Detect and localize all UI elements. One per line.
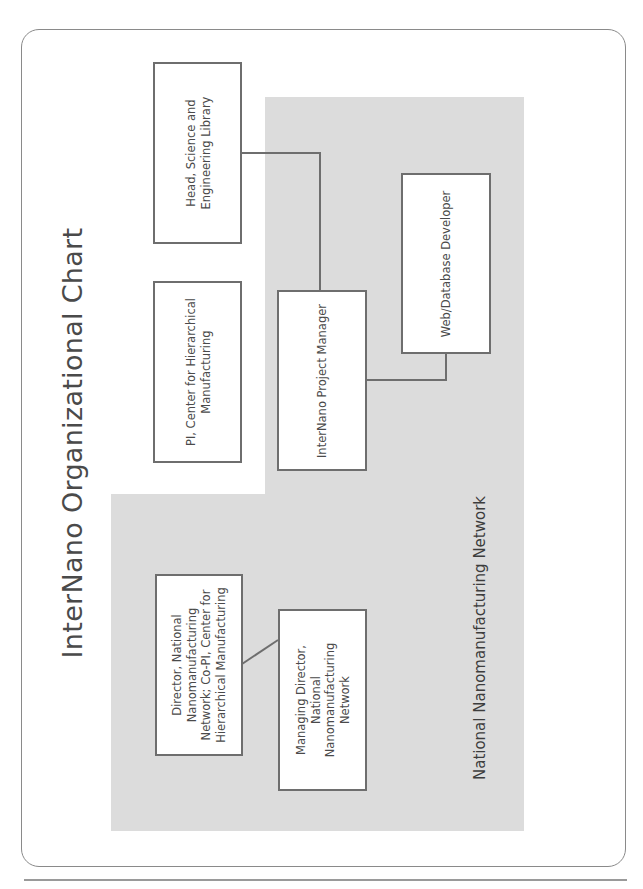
node-label: Web/Database Developer [439, 176, 454, 351]
node-label: PI, Center for Hierarchical Manufacturin… [183, 285, 212, 460]
footer-divider [24, 879, 627, 881]
node-label: InterNano Project Manager [315, 293, 330, 468]
node-director-nnn: Director, National Nanomanufacturing Net… [155, 574, 243, 756]
node-label: Head, Science and Engineering Library [183, 68, 212, 238]
node-managing-director-nnn: Managing Director, National Nanomanufact… [278, 609, 367, 791]
node-label: Managing Director, National Nanomanufact… [294, 613, 352, 788]
nnn-region-label: National Nanomanufacturing Network [471, 496, 489, 780]
node-web-db-developer: Web/Database Developer [401, 173, 491, 354]
node-head-library: Head, Science and Engineering Library [153, 62, 242, 244]
node-project-manager: InterNano Project Manager [277, 290, 367, 471]
node-pi-chm: PI, Center for Hierarchical Manufacturin… [153, 281, 242, 463]
node-label: Director, National Nanomanufacturing Net… [170, 576, 228, 754]
chart-title: InterNano Organizational Chart [57, 228, 88, 659]
